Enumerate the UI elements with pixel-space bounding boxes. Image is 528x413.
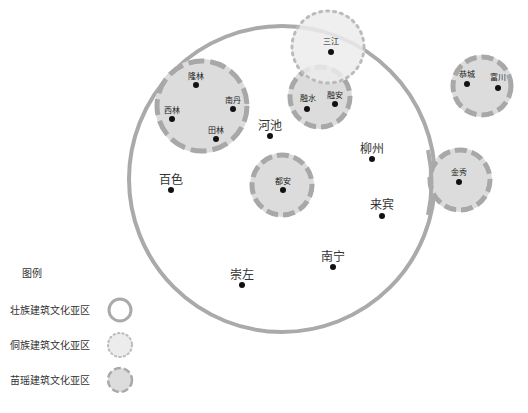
city-baise: 百色 xyxy=(159,173,183,193)
svg-text:崇左: 崇左 xyxy=(230,267,254,282)
miao-yao-region-northeast xyxy=(451,55,513,117)
legend-label-dong: 侗族建筑文化亚区 xyxy=(10,339,90,351)
city-liuzhou: 柳州 xyxy=(360,142,384,162)
svg-text:来宾: 来宾 xyxy=(370,197,394,212)
culture-region-diagram: 隆林 西林 南丹 田林 三江 融水 融安 恭城 富川 金秀 都安 河池 xyxy=(0,0,528,413)
svg-text:南丹: 南丹 xyxy=(225,95,241,105)
svg-text:河池: 河池 xyxy=(258,119,282,133)
svg-text:南宁: 南宁 xyxy=(321,249,345,264)
svg-text:富川: 富川 xyxy=(490,72,506,82)
dong-region-sanjiang xyxy=(291,10,365,84)
legend-dotted-circle-icon xyxy=(108,333,132,357)
svg-text:都安: 都安 xyxy=(275,176,291,186)
city-nanning: 南宁 xyxy=(321,249,345,270)
svg-text:融安: 融安 xyxy=(327,90,343,100)
legend-title: 图例 xyxy=(22,267,42,279)
svg-text:百色: 百色 xyxy=(159,173,183,187)
city-chongzuo: 崇左 xyxy=(230,267,254,288)
city-hechi: 河池 xyxy=(258,119,282,139)
svg-text:融水: 融水 xyxy=(300,93,316,103)
svg-text:恭城: 恭城 xyxy=(459,70,475,79)
svg-text:隆林: 隆林 xyxy=(188,71,204,81)
svg-text:金秀: 金秀 xyxy=(451,167,467,177)
city-laibin: 来宾 xyxy=(370,197,394,219)
legend-solid-ring-icon xyxy=(109,299,131,321)
svg-text:柳州: 柳州 xyxy=(360,142,384,156)
legend: 图例 壮族建筑文化亚区 侗族建筑文化亚区 苗瑶建筑文化亚区 xyxy=(10,267,132,392)
legend-label-zhuang: 壮族建筑文化亚区 xyxy=(10,304,90,316)
svg-text:西林: 西林 xyxy=(164,105,180,115)
legend-label-miao-yao: 苗瑶建筑文化亚区 xyxy=(10,374,90,386)
legend-dashed-circle-icon xyxy=(108,368,132,392)
svg-text:田林: 田林 xyxy=(208,125,224,135)
svg-text:三江: 三江 xyxy=(323,37,339,46)
